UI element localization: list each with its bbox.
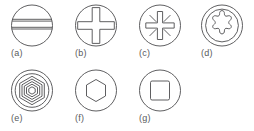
pozidriv-drive-icon <box>137 3 183 48</box>
torx-star-drive-icon <box>199 3 245 48</box>
drive-row-2: (e) (f) <box>0 65 254 130</box>
drive-cell-spline: (e) <box>0 65 64 130</box>
screw-drive-types-figure: (a) (b) <box>0 0 254 131</box>
phillips-cross-drive-icon <box>73 3 119 48</box>
drive-cell-phillips: (b) <box>64 0 128 65</box>
drive-label: (e) <box>11 112 51 124</box>
drive-label: (c) <box>139 47 179 59</box>
drive-cell-pozidriv: (c) <box>128 0 192 65</box>
drive-cell-slotted: (a) <box>0 0 64 65</box>
drive-row-1: (a) (b) <box>0 0 254 65</box>
drive-label: (d) <box>201 47 241 59</box>
drive-label: (a) <box>11 47 51 59</box>
square-socket-drive-icon <box>137 68 183 113</box>
spline-hex-drive-icon <box>9 68 55 113</box>
drive-cell-torx: (d) <box>190 0 254 65</box>
drive-cell-hex-socket: (f) <box>64 65 128 130</box>
drive-label: (g) <box>139 112 179 124</box>
hex-socket-drive-icon <box>73 68 119 113</box>
drive-label: (f) <box>75 112 115 124</box>
slotted-drive-icon <box>9 3 55 48</box>
drive-label: (b) <box>75 47 115 59</box>
drive-cell-square-socket: (g) <box>128 65 192 130</box>
